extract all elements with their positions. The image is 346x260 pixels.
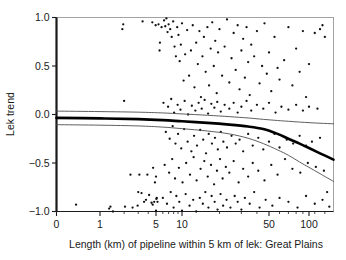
data-point [189, 173, 191, 175]
data-point [230, 135, 232, 137]
data-point [174, 177, 176, 179]
data-point [112, 210, 114, 212]
data-point [141, 20, 143, 22]
data-point [291, 84, 293, 86]
data-point [150, 202, 152, 204]
data-point [159, 42, 161, 44]
y-tick-label: 0.5 [35, 60, 50, 72]
data-point [136, 205, 138, 207]
data-point [228, 108, 230, 110]
data-point [295, 47, 297, 49]
data-point [262, 108, 264, 110]
data-point [167, 23, 169, 25]
data-point [280, 106, 282, 108]
data-point [216, 101, 218, 103]
data-point [169, 138, 171, 140]
data-point [298, 135, 300, 137]
data-point [164, 25, 166, 27]
data-point [151, 21, 153, 23]
data-point [262, 148, 264, 150]
data-point [223, 104, 225, 106]
data-point [235, 142, 237, 144]
data-point [183, 100, 185, 102]
y-tick-label: 1.0 [35, 11, 50, 23]
data-point [160, 26, 162, 28]
data-point [295, 104, 297, 106]
data-point [321, 199, 323, 201]
data-point [284, 158, 286, 160]
scatter-plot-figure: 0151050100 1.00.50.0−0.5−1.0 Length (km)… [0, 0, 346, 260]
data-point [148, 194, 150, 196]
data-point [204, 191, 206, 193]
data-point [315, 166, 317, 168]
data-point [173, 45, 175, 47]
data-point [166, 31, 168, 33]
data-point [249, 94, 251, 96]
x-tick-label: 100 [300, 218, 318, 230]
data-point [319, 28, 321, 30]
data-point [179, 109, 181, 111]
data-point [185, 193, 187, 195]
data-point [198, 30, 200, 32]
data-point [175, 55, 177, 57]
data-point [287, 201, 289, 203]
data-point [225, 199, 227, 201]
data-point [210, 103, 212, 105]
data-point [176, 26, 178, 28]
data-point [121, 28, 123, 30]
data-point [180, 147, 182, 149]
data-point [238, 88, 240, 90]
data-point [268, 141, 270, 143]
data-point [270, 164, 272, 166]
data-point [195, 179, 197, 181]
data-point [324, 36, 326, 38]
data-point [205, 152, 207, 154]
data-point [155, 24, 157, 26]
data-point [299, 172, 301, 174]
data-point [192, 24, 194, 26]
data-point [170, 191, 172, 193]
data-point [75, 204, 77, 206]
data-point [216, 170, 218, 172]
data-point [213, 65, 215, 67]
data-point [131, 206, 133, 208]
data-point [292, 142, 294, 144]
data-point [165, 131, 167, 133]
data-point [197, 102, 199, 104]
data-point [207, 206, 209, 208]
data-point [213, 183, 215, 185]
data-point [270, 90, 272, 92]
data-point [172, 20, 174, 22]
data-point [214, 40, 216, 42]
data-point [219, 158, 221, 160]
data-point [165, 17, 167, 19]
x-tick-label: 1 [97, 218, 103, 230]
data-point [287, 109, 289, 111]
data-point [244, 197, 246, 199]
data-point [162, 197, 164, 199]
data-point [247, 61, 249, 63]
data-point [208, 84, 210, 86]
data-point [162, 102, 164, 104]
data-point [138, 173, 140, 175]
data-point [152, 204, 154, 206]
data-point [192, 199, 194, 201]
data-point [242, 168, 244, 170]
y-axis-label: Lek trend [4, 92, 16, 136]
x-tick-label: 50 [263, 218, 275, 230]
data-point [210, 164, 212, 166]
data-point [240, 208, 242, 210]
data-point [186, 141, 188, 143]
data-point [207, 175, 209, 177]
data-point [222, 205, 224, 207]
data-point [178, 201, 180, 203]
data-point [210, 195, 212, 197]
data-point [278, 78, 280, 80]
data-point [122, 23, 124, 25]
data-point [244, 76, 246, 78]
data-point [321, 24, 323, 26]
data-point [203, 99, 205, 101]
data-point [143, 201, 145, 203]
data-point [171, 158, 173, 160]
data-point [177, 133, 179, 135]
